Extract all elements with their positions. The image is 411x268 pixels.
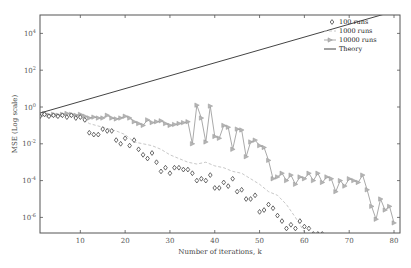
x-tick-label: 60 <box>300 237 309 245</box>
diamond-marker <box>280 219 284 224</box>
diamond-marker <box>231 176 235 181</box>
diamond-marker <box>271 206 275 211</box>
diamond-marker <box>173 165 177 170</box>
diamond-marker <box>182 167 186 172</box>
legend-item: 100 runs <box>330 18 368 26</box>
diamond-marker <box>164 165 168 170</box>
triangle-marker <box>114 117 118 121</box>
diamond-marker <box>208 173 212 178</box>
diamond-marker <box>155 160 159 165</box>
triangle-marker <box>155 120 159 124</box>
triangle-marker <box>280 171 284 175</box>
diamond-marker <box>114 138 118 143</box>
triangle-marker <box>177 121 181 125</box>
triangle-marker <box>356 180 360 184</box>
triangle-marker <box>249 140 253 144</box>
diamond-marker <box>123 136 127 141</box>
triangle-marker <box>132 120 136 124</box>
triangle-marker <box>222 123 226 127</box>
diamond-marker <box>96 132 100 137</box>
y-tick-label: 10-2 <box>22 138 36 148</box>
diamond-marker <box>289 222 293 227</box>
diamond-marker <box>267 202 271 207</box>
y-tick-label: 10-6 <box>22 212 36 222</box>
diamond-marker <box>244 197 248 202</box>
diamond-marker <box>226 184 230 189</box>
diamond-marker <box>191 171 195 176</box>
diamond-marker <box>217 186 221 191</box>
x-axis-label: Number of iterations, k <box>178 248 262 256</box>
diamond-marker <box>303 224 307 229</box>
triangle-marker <box>150 120 154 124</box>
diamond-marker <box>92 132 96 137</box>
triangle-marker <box>123 114 127 118</box>
diamond-marker <box>258 209 262 214</box>
diamond-marker <box>110 129 114 134</box>
diamond-marker <box>240 187 244 192</box>
series-10000-runs <box>40 105 394 223</box>
legend-label: 1000 runs <box>339 27 372 35</box>
y-tick-label: 10-4 <box>22 175 36 185</box>
triangle-marker <box>343 184 347 188</box>
diamond-marker <box>128 143 132 148</box>
series-1000-runs <box>40 115 304 232</box>
y-tick-label: 104 <box>24 28 36 38</box>
diamond-marker <box>195 178 199 183</box>
diamond-marker <box>141 152 145 157</box>
diamond-marker <box>262 208 266 213</box>
triangle-marker <box>392 221 396 225</box>
legend-label: 10000 runs <box>339 36 377 44</box>
x-tick-label: 30 <box>165 237 174 245</box>
triangle-marker <box>110 116 114 120</box>
x-tick-label: 50 <box>255 237 264 245</box>
diamond-marker <box>294 226 298 231</box>
triangle-marker <box>168 123 172 127</box>
triangle-marker <box>352 178 356 182</box>
legend-item: 1000 runs <box>324 27 372 35</box>
legend-item: Theory <box>324 45 362 53</box>
triangle-marker <box>258 143 262 147</box>
triangle-marker <box>235 127 239 131</box>
diamond-marker <box>312 232 316 237</box>
diamond-marker <box>168 171 172 176</box>
x-tick-label: 80 <box>390 237 399 245</box>
triangle-marker <box>181 120 185 124</box>
diamond-marker <box>285 226 289 231</box>
diamond-marker <box>213 186 217 191</box>
diamond-marker <box>159 169 163 174</box>
diamond-marker <box>119 141 123 146</box>
triangle-marker <box>119 116 123 120</box>
diamond-marker <box>186 167 190 172</box>
diamond-marker <box>316 232 320 237</box>
diamond-marker <box>321 232 325 237</box>
diamond-marker <box>253 193 257 198</box>
triangle-marker <box>137 121 141 125</box>
diamond-marker <box>146 156 150 161</box>
y-tick-label: 102 <box>24 65 36 75</box>
y-axis-ticks: 10410210010-210-410-6 <box>22 28 400 222</box>
diamond-icon <box>330 20 334 25</box>
legend-label: 100 runs <box>339 18 368 26</box>
legend: 100 runs1000 runs10000 runsTheory <box>324 18 377 53</box>
legend-label: Theory <box>339 45 362 53</box>
triangle-marker <box>307 171 311 175</box>
triangle-marker <box>163 121 167 125</box>
diamond-marker <box>204 178 208 183</box>
diamond-marker <box>177 165 181 170</box>
triangle-marker <box>347 177 351 181</box>
x-tick-label: 40 <box>210 237 219 245</box>
y-axis-label: MSE (Log scale) <box>11 95 19 154</box>
triangle-marker <box>96 116 100 120</box>
triangle-marker <box>298 175 302 179</box>
triangle-marker <box>293 182 297 186</box>
triangle-marker <box>92 115 96 119</box>
diamond-marker <box>307 226 311 231</box>
triangle-marker <box>87 116 91 120</box>
diamond-marker <box>137 147 141 152</box>
triangle-marker <box>325 175 329 179</box>
diamond-marker <box>87 130 91 135</box>
diamond-marker <box>276 213 280 218</box>
x-tick-label: 70 <box>345 237 354 245</box>
diamond-marker <box>235 189 239 194</box>
triangle-marker <box>271 177 275 181</box>
